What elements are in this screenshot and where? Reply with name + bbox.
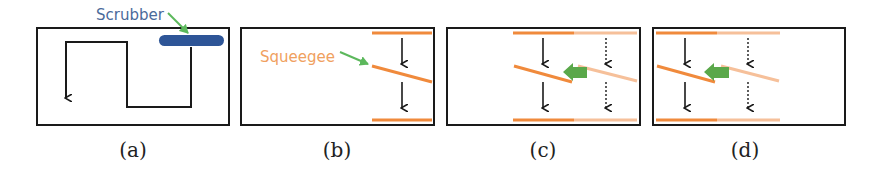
scrubber-bar-icon (159, 35, 224, 46)
panel-d-caption: (d) (731, 138, 759, 162)
panel-b-caption: (b) (323, 138, 351, 162)
panel-c: (c) (447, 28, 640, 162)
panel-d: (d) (653, 28, 845, 162)
panel-b-frame (241, 28, 434, 125)
squeegee-label: Squeegee (260, 48, 335, 66)
panel-a: Scrubber (a) (37, 6, 229, 162)
panel-a-caption: (a) (119, 138, 147, 162)
scrubber-label: Scrubber (96, 6, 165, 24)
panel-b: Squeegee (b) (241, 28, 434, 162)
panel-c-caption: (c) (530, 138, 557, 162)
cleaning-diagram: Scrubber (a) Squeegee (b) (c) (0, 0, 877, 173)
panel-d-frame (653, 28, 845, 125)
